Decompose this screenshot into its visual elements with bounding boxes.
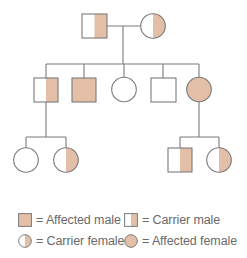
pedigree-chart [0,0,247,200]
legend-label: = Carrier male [142,213,220,227]
legend-label: = Affected female [142,234,237,248]
individual-II-5-affected-female [187,77,212,102]
individual-II-1-carrier-male [34,78,58,102]
legend: = Affected male = Carrier male = Carrier… [0,208,247,258]
legend-item-affected-female: = Affected female [124,233,237,249]
legend-item-carrier-male: = Carrier male [124,212,220,228]
individual-III-2-carrier-female [54,148,79,173]
individual-II-2-affected-male [72,78,96,102]
affected-male-symbol-icon [18,213,32,227]
legend-item-carrier-female: = Carrier female [18,233,124,249]
individual-III-3-carrier-male [168,148,192,172]
legend-label: = Affected male [36,213,121,227]
legend-label: = Carrier female [36,234,124,248]
individual-I-1-carrier-male [82,14,107,38]
carrier-male-symbol-icon [124,213,138,227]
carrier-female-symbol-icon [18,234,32,248]
affected-female-symbol-icon [124,234,138,248]
individual-I-2-carrier-female [141,14,166,39]
individual-II-4-unaffected-male [151,78,176,102]
individual-II-3-unaffected-female [112,77,137,102]
legend-item-affected-male: = Affected male [18,212,121,228]
individual-III-4-carrier-female [207,148,232,173]
individual-III-1-unaffected-female [14,148,39,173]
